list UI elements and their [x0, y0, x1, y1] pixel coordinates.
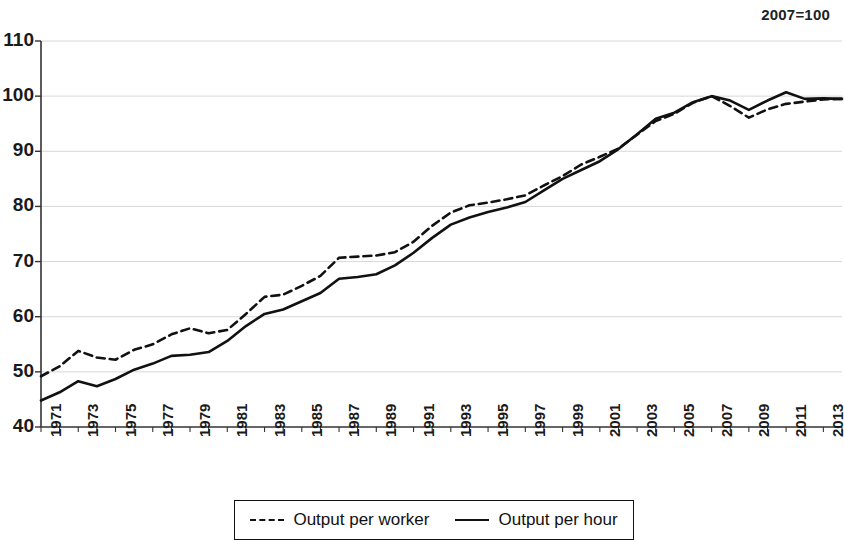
y-axis-tick-label: 80: [0, 194, 34, 216]
x-axis-tick-label: 2005: [680, 404, 697, 437]
x-axis-tick-label: 2011: [792, 404, 809, 437]
x-axis-tick-label: 1975: [122, 404, 139, 437]
data-series-line: [41, 92, 842, 400]
x-axis-tick-label: 1977: [159, 404, 176, 437]
data-series-line: [41, 96, 842, 376]
chart-legend: Output per worker Output per hour: [234, 500, 634, 540]
x-axis-tick-label: 1991: [420, 404, 437, 437]
x-axis-tick-label: 2001: [606, 404, 623, 437]
x-axis-tick-label: 1987: [345, 404, 362, 437]
x-axis-tick-label: 1997: [531, 404, 548, 437]
legend-label: Output per hour: [498, 510, 617, 530]
y-axis-tick-label: 100: [0, 84, 34, 106]
x-axis-tick-label: 2003: [643, 404, 660, 437]
legend-item: Output per worker: [250, 510, 429, 530]
dashed-line-icon: [250, 519, 284, 521]
x-axis-tick-label: 1979: [196, 404, 213, 437]
x-axis-tick-label: 1993: [457, 404, 474, 437]
y-axis-ticks: [35, 41, 41, 427]
x-axis-tick-label: 2009: [755, 404, 772, 437]
legend-item: Output per hour: [455, 510, 617, 530]
y-axis-tick-label: 50: [0, 360, 34, 382]
x-axis-tick-label: 1985: [308, 404, 325, 437]
data-series-layer: [41, 92, 842, 400]
x-axis-tick-label: 2013: [829, 404, 844, 437]
x-axis-tick-label: 1989: [382, 404, 399, 437]
x-axis-tick-label: 1981: [233, 404, 250, 437]
x-axis-tick-label: 1995: [494, 404, 511, 437]
y-axis-tick-label: 70: [0, 250, 34, 272]
gridlines: [41, 41, 842, 372]
x-axis-tick-label: 2007: [718, 404, 735, 437]
solid-line-icon: [455, 519, 489, 521]
y-axis-tick-label: 90: [0, 139, 34, 161]
x-axis-tick-label: 1999: [569, 404, 586, 437]
x-axis-tick-label: 1973: [84, 404, 101, 437]
y-axis-tick-label: 40: [0, 415, 34, 437]
y-axis-tick-label: 110: [0, 29, 34, 51]
x-axis-tick-label: 1983: [271, 404, 288, 437]
legend-label: Output per worker: [293, 510, 429, 530]
x-axis-tick-label: 1971: [47, 404, 64, 437]
y-axis-tick-label: 60: [0, 305, 34, 327]
